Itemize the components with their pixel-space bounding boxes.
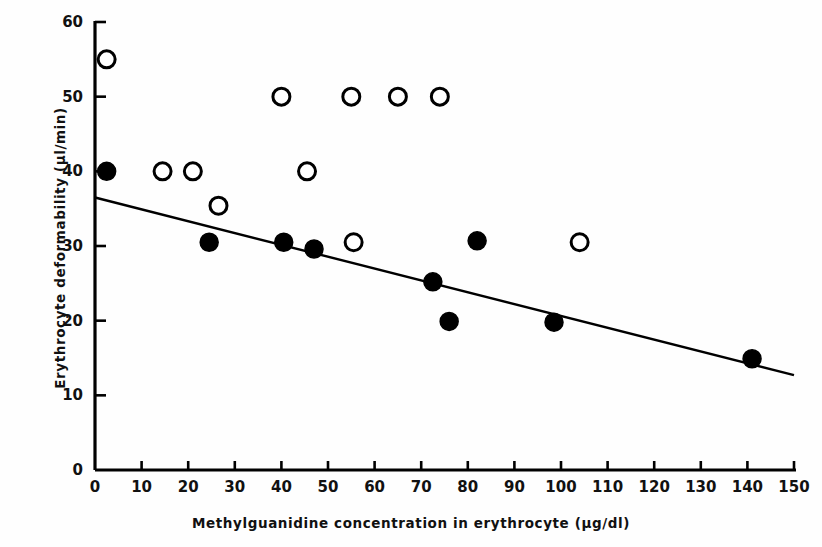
- filled-data-point: [275, 233, 293, 251]
- open-data-point: [389, 88, 406, 105]
- open-data-point: [345, 234, 362, 251]
- filled-data-point: [424, 273, 442, 291]
- regression-line: [95, 197, 794, 375]
- open-data-point: [184, 163, 201, 180]
- filled-data-point: [468, 232, 486, 250]
- open-data-point: [343, 88, 360, 105]
- open-data-point: [299, 163, 316, 180]
- open-data-point: [431, 88, 448, 105]
- filled-data-point: [743, 350, 761, 368]
- open-data-point: [98, 51, 115, 68]
- filled-data-point: [440, 312, 458, 330]
- chart-figure: Erythrocyte deformability (μl/min) Methy…: [0, 0, 822, 547]
- data-markers: [98, 51, 761, 368]
- plot-area: [0, 0, 822, 547]
- open-data-point: [154, 163, 171, 180]
- open-data-point: [210, 197, 227, 214]
- filled-data-point: [305, 240, 323, 258]
- open-data-point: [571, 234, 588, 251]
- filled-data-point: [545, 313, 563, 331]
- open-data-point: [273, 88, 290, 105]
- filled-data-point: [200, 233, 218, 251]
- filled-data-point: [98, 162, 116, 180]
